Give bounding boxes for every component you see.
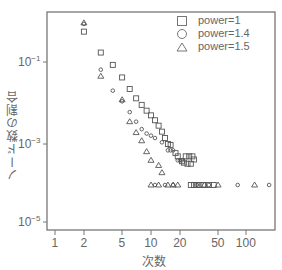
- triangle-marker: [133, 130, 139, 135]
- square-marker: [183, 154, 188, 159]
- triangle-marker: [127, 119, 133, 124]
- square-marker-icon: [176, 15, 188, 27]
- triangle-marker: [156, 162, 162, 167]
- circle-marker: [145, 132, 149, 136]
- square-marker: [190, 154, 195, 159]
- square-marker: [139, 102, 144, 107]
- circle-marker: [134, 120, 138, 124]
- circle-marker: [267, 183, 271, 187]
- legend: power=1 power=1.4 power=1.5: [176, 14, 250, 53]
- square-marker: [127, 86, 132, 91]
- square-marker: [110, 62, 115, 67]
- x-tick-label: 20: [173, 236, 186, 250]
- triangle-marker: [252, 182, 258, 187]
- square-marker: [156, 123, 161, 128]
- legend-item-power-1: power=1: [176, 14, 250, 27]
- x-axis-label: 次数: [142, 252, 166, 269]
- circle-marker: [149, 134, 153, 138]
- square-marker: [98, 50, 103, 55]
- triangle-marker: [144, 149, 150, 154]
- square-marker: [152, 118, 157, 123]
- x-tick-label: 5: [119, 236, 126, 250]
- x-tick-label: 1: [52, 236, 59, 250]
- circle-marker: [207, 183, 211, 187]
- y-tick-label: 10−3: [18, 136, 40, 151]
- circle-marker: [128, 110, 132, 114]
- legend-item-power-1-4: power=1.4: [176, 27, 250, 40]
- x-tick-label: 10: [144, 236, 157, 250]
- circle-marker: [120, 100, 124, 104]
- x-tick-label: 50: [211, 236, 224, 250]
- triangle-marker: [165, 182, 171, 187]
- legend-label: power=1.4: [198, 27, 250, 40]
- legend-item-power-1-5: power=1.5: [176, 40, 250, 53]
- square-marker: [134, 96, 139, 101]
- square-marker: [188, 183, 193, 188]
- x-tick-label: 2: [81, 236, 88, 250]
- y-tick-label: 10−5: [18, 214, 40, 229]
- circle-marker: [140, 127, 144, 131]
- x-tick-label: 100: [236, 236, 256, 250]
- legend-label: power=1: [198, 14, 241, 27]
- square-marker: [187, 154, 192, 159]
- square-marker: [163, 136, 168, 141]
- x-axis-ticks: [55, 230, 246, 235]
- y-tick-label: 10−1: [18, 54, 40, 69]
- legend-label: power=1.5: [198, 40, 250, 53]
- triangle-marker: [139, 138, 145, 143]
- triangle-marker: [175, 182, 181, 187]
- triangle-marker: [148, 157, 154, 162]
- circle-marker: [160, 141, 164, 145]
- circle-marker: [111, 89, 115, 93]
- triangle-marker: [159, 170, 165, 175]
- square-marker: [81, 29, 86, 34]
- square-marker: [159, 129, 164, 134]
- circle-marker: [99, 68, 103, 72]
- circle-marker-icon: [176, 28, 188, 40]
- y-axis-label: ノード数の割合: [4, 90, 21, 181]
- circle-marker: [153, 136, 157, 140]
- triangle-marker-icon: [176, 41, 188, 53]
- square-marker: [120, 75, 125, 80]
- triangle-marker: [98, 73, 104, 78]
- circle-marker: [236, 183, 240, 187]
